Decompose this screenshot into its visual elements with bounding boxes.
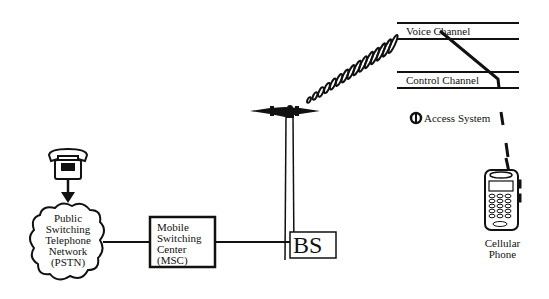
pstn-label: Public Switching Telephone Network (PSTN… bbox=[33, 213, 103, 268]
radio-wave-icon bbox=[306, 34, 399, 103]
telephone-icon bbox=[49, 149, 87, 179]
cellular-phone-label: Cellular Phone bbox=[475, 238, 530, 260]
access-system-icon bbox=[411, 113, 421, 123]
cellular-network-diagram: Voice Channel Control Channel Access Sys… bbox=[0, 0, 549, 299]
antenna-tower-icon bbox=[250, 105, 320, 118]
msc-label: Mobile Switching Center (MSC) bbox=[157, 222, 202, 266]
access-dashes bbox=[501, 112, 508, 157]
voice-channel-label: Voice Channel bbox=[406, 26, 470, 37]
bs-label: BS bbox=[293, 233, 322, 257]
arrow-down-icon bbox=[61, 192, 75, 203]
cellular-phone-icon bbox=[485, 158, 521, 230]
control-channel-label: Control Channel bbox=[406, 75, 479, 86]
access-system-label: Access System bbox=[424, 113, 490, 124]
